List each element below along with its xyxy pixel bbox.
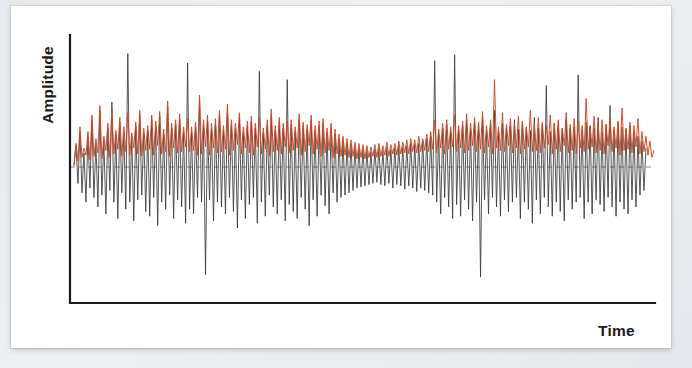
x-axis-label: Time	[598, 322, 635, 340]
series-raw-signal	[74, 54, 646, 277]
y-axis-label: Amplitude	[39, 46, 57, 124]
signal-plot-svg	[0, 0, 692, 368]
figure-root: Amplitude Time	[0, 0, 692, 368]
signal-traces	[74, 54, 654, 277]
